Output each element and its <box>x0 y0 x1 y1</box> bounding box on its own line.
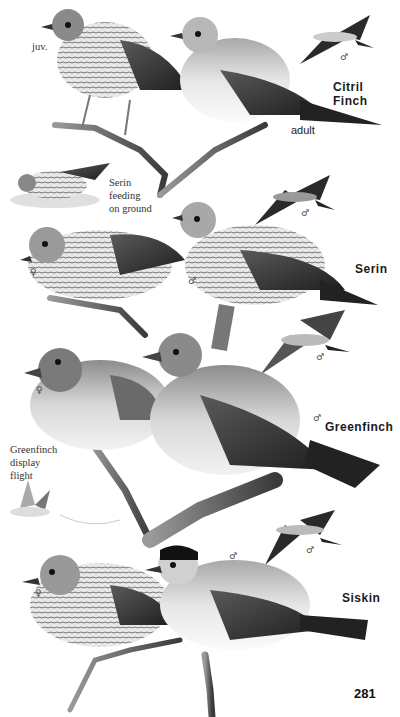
male-symbol: ♂ <box>188 276 196 286</box>
branch <box>90 440 150 540</box>
branch <box>205 655 212 717</box>
branch <box>150 480 275 540</box>
citril-finch-flight <box>300 15 374 64</box>
species-name-siskin: Siskin <box>342 591 380 605</box>
page-number: 281 <box>354 686 376 701</box>
serin-flight-lower <box>260 310 350 375</box>
male-symbol: ♂ <box>229 551 237 561</box>
citril-finch-juvenile <box>41 9 190 135</box>
branch <box>160 125 265 195</box>
field-guide-plate: juv. adult ♂ Citril Finch Serin feeding … <box>0 0 400 717</box>
siskin-male <box>145 545 368 650</box>
female-symbol: ♀ <box>36 385 43 395</box>
siskin-group <box>22 545 368 717</box>
greenfinch-flight <box>265 510 342 565</box>
species-name-greenfinch: Greenfinch <box>325 420 393 434</box>
female-symbol: ♀ <box>30 267 37 277</box>
serin-female <box>20 227 185 335</box>
greenfinch-female <box>24 348 170 450</box>
male-symbol: ♂ <box>306 545 314 555</box>
serin-feeding <box>10 163 110 208</box>
greenfinch-group <box>10 333 380 565</box>
branch <box>70 640 180 710</box>
adult-label: adult <box>291 124 315 137</box>
male-symbol: ♂ <box>316 352 324 362</box>
male-symbol: ♂ <box>340 52 348 62</box>
serin-feeding-caption: Serin feeding on ground <box>109 176 152 215</box>
serin-flight-upper <box>255 175 335 225</box>
greenfinch-male <box>142 333 380 488</box>
male-symbol: ♂ <box>301 208 309 218</box>
species-name-citril-finch: Citril Finch <box>333 80 400 108</box>
female-symbol: ♀ <box>35 588 42 598</box>
juvenile-label: juv. <box>32 40 47 53</box>
serin-male <box>172 202 378 351</box>
greenfinch-display-flight <box>10 480 120 524</box>
species-name-serin: Serin <box>355 262 388 276</box>
male-symbol: ♂ <box>313 413 321 423</box>
greenfinch-display-caption: Greenfinch display flight <box>10 443 57 482</box>
